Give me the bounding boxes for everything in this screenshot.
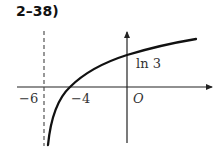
- function-graph: −6 −4 O ln 3: [0, 0, 223, 157]
- tick-label-neg6: −6: [19, 91, 38, 106]
- origin-label: O: [133, 91, 144, 106]
- y-intercept-label: ln 3: [136, 56, 161, 71]
- tick-label-neg4: −4: [71, 91, 90, 106]
